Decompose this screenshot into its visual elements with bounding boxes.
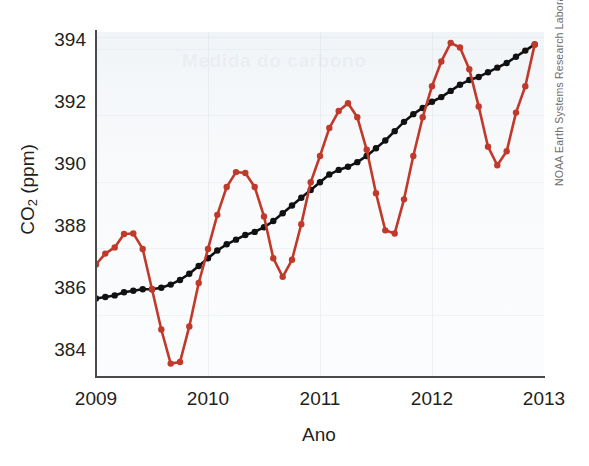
- data-point: [242, 232, 248, 238]
- data-point: [504, 60, 510, 66]
- data-point: [392, 128, 398, 134]
- co2-chart-figure: Medida do carbono 394392390388386384 200…: [0, 0, 589, 466]
- data-point: [214, 212, 220, 218]
- data-point: [513, 109, 519, 115]
- y-axis-line: [95, 30, 97, 378]
- data-point: [457, 81, 463, 87]
- plot-area: Medida do carbono: [96, 32, 544, 376]
- data-point: [233, 169, 239, 175]
- data-point: [373, 190, 379, 196]
- data-point: [214, 247, 220, 253]
- data-point: [476, 103, 482, 109]
- data-point: [186, 323, 192, 329]
- x-axis-title: Ano: [259, 424, 379, 446]
- x-tick-label: 2010: [173, 388, 243, 410]
- data-point: [429, 99, 435, 105]
- data-point: [270, 218, 276, 224]
- data-point: [177, 277, 183, 283]
- y-axis-title-prefix: CO: [17, 206, 38, 235]
- data-point: [261, 213, 267, 219]
- data-point: [494, 64, 500, 70]
- data-point: [410, 111, 416, 117]
- data-point: [289, 202, 295, 208]
- data-point: [280, 210, 286, 216]
- data-point: [532, 41, 538, 47]
- y-axis-title-suffix: (ppm): [17, 144, 38, 199]
- data-point: [485, 69, 491, 75]
- data-point: [140, 246, 146, 252]
- y-tick-label: 394: [30, 29, 86, 51]
- data-point: [298, 195, 304, 201]
- data-point: [354, 159, 360, 165]
- data-point: [289, 257, 295, 263]
- data-point: [112, 244, 118, 250]
- data-point: [401, 196, 407, 202]
- data-point: [420, 114, 426, 120]
- data-point: [177, 359, 183, 365]
- y-axis-title: CO2 (ppm): [17, 120, 40, 260]
- data-point: [401, 119, 407, 125]
- data-point: [513, 54, 519, 60]
- data-point: [102, 294, 108, 300]
- data-point: [466, 66, 472, 72]
- data-point: [130, 230, 136, 236]
- x-tick-label: 2011: [285, 388, 355, 410]
- data-point: [438, 58, 444, 64]
- data-point: [382, 137, 388, 143]
- data-point: [345, 164, 351, 170]
- data-point: [364, 147, 370, 153]
- series-line: [96, 43, 535, 364]
- series-monthly: [96, 40, 538, 367]
- data-point: [448, 88, 454, 94]
- y-tick-label: 384: [30, 339, 86, 361]
- data-point: [326, 125, 332, 131]
- data-point: [494, 162, 500, 168]
- data-point: [102, 250, 108, 256]
- data-point: [270, 255, 276, 261]
- data-point: [149, 286, 155, 292]
- series-svg: [96, 32, 544, 376]
- data-point: [196, 280, 202, 286]
- data-point: [298, 221, 304, 227]
- data-point: [504, 148, 510, 154]
- y-axis-title-subscript: 2: [25, 199, 40, 206]
- data-point: [448, 40, 454, 46]
- data-point: [317, 153, 323, 159]
- data-point: [130, 288, 136, 294]
- data-point: [354, 114, 360, 120]
- data-point: [252, 229, 258, 235]
- data-point: [224, 241, 230, 247]
- data-point: [326, 171, 332, 177]
- source-credit: NOAA Earth Systems Research Laboratory: [553, 0, 565, 186]
- data-point: [112, 292, 118, 298]
- data-point: [476, 74, 482, 80]
- x-tick-label: 2013: [509, 388, 579, 410]
- data-point: [252, 184, 258, 190]
- data-point: [345, 100, 351, 106]
- data-point: [308, 179, 314, 185]
- data-point: [224, 184, 230, 190]
- data-point: [242, 170, 248, 176]
- x-tick-label: 2012: [397, 388, 467, 410]
- data-point: [121, 231, 127, 237]
- data-point: [168, 360, 174, 366]
- data-point: [438, 94, 444, 100]
- data-point: [168, 281, 174, 287]
- x-axis-line: [95, 376, 545, 378]
- data-point: [522, 83, 528, 89]
- data-point: [429, 83, 435, 89]
- data-point: [233, 236, 239, 242]
- data-point: [140, 286, 146, 292]
- data-point: [158, 284, 164, 290]
- data-point: [280, 274, 286, 280]
- data-point: [522, 47, 528, 53]
- data-point: [382, 227, 388, 233]
- x-tick-label: 2009: [61, 388, 131, 410]
- data-point: [317, 179, 323, 185]
- data-point: [410, 153, 416, 159]
- data-point: [205, 246, 211, 252]
- data-point: [392, 230, 398, 236]
- data-point: [485, 143, 491, 149]
- data-point: [121, 289, 127, 295]
- data-point: [336, 108, 342, 114]
